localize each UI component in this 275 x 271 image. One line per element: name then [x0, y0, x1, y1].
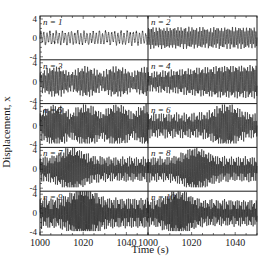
y-tick-label: 0: [33, 208, 38, 218]
y-tick-label: 0: [33, 164, 38, 174]
x-tick-label: 1020: [73, 237, 93, 248]
panel-n3: n = 3: [40, 61, 148, 97]
panel-label: n = 2: [151, 17, 171, 27]
x-tick-label: 1000: [30, 237, 50, 248]
y-tick-label: 4: [33, 145, 38, 155]
y-tick-label: 4: [33, 189, 38, 199]
panel-n6: n = 6: [148, 105, 257, 144]
y-tick-label: -4: [30, 227, 38, 237]
series-line: [40, 30, 148, 46]
y-tick-label: 4: [33, 102, 38, 112]
y-tick-label: 4: [33, 58, 38, 68]
y-tick-label: 4: [33, 14, 38, 24]
panel-label: n = 9: [43, 192, 63, 202]
x-tick-label: 1020: [182, 237, 202, 248]
panel-label: n = 6: [151, 105, 171, 115]
y-axis-label-text: Displacement, x: [0, 96, 12, 167]
y-tick-label: 0: [33, 121, 38, 131]
panel-n2: n = 2: [148, 17, 257, 49]
panel-n7: n = 7: [40, 148, 148, 187]
panel-n8: n = 8: [148, 148, 257, 187]
panel-label: n = 1: [43, 17, 63, 27]
panel-label: n = 8: [151, 148, 171, 158]
chart-canvas: n = 140-4n = 2n = 340-4n = 4n = 540-4n =…: [0, 0, 275, 271]
panel-label: n = 10: [151, 192, 176, 202]
panel-n1: n = 1: [40, 17, 148, 46]
series-line: [148, 27, 257, 49]
panel-label: n = 4: [151, 61, 171, 71]
panel-n4: n = 4: [148, 61, 257, 99]
x-axis-label: Time (s): [131, 243, 168, 255]
y-tick-label: 0: [33, 77, 38, 87]
x-tick-label: 1040: [225, 237, 245, 248]
panel-label: n = 3: [43, 61, 63, 71]
y-tick-label: 0: [33, 33, 38, 43]
panel-n9: n = 9: [40, 191, 148, 231]
panel-label: n = 5: [43, 105, 63, 115]
panel-n5: n = 5: [40, 104, 148, 143]
panel-n10: n = 10: [148, 191, 257, 231]
panel-label: n = 7: [43, 148, 63, 158]
